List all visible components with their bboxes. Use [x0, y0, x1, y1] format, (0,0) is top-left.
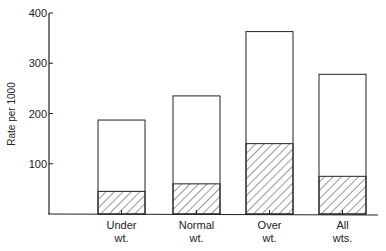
y-tick-label: 300 — [29, 57, 47, 69]
bars — [98, 32, 366, 214]
bar-chart: 100200300400 Underwt.Normalwt.Overwt.All… — [0, 0, 386, 251]
category-label: All — [336, 219, 348, 231]
bar-hatched — [173, 184, 220, 214]
category-labels: Underwt.Normalwt.Overwt.Allwts. — [107, 219, 353, 244]
bar-group — [173, 96, 220, 214]
y-tick-label: 100 — [29, 158, 47, 170]
category-label-line2: wts. — [332, 232, 353, 244]
category-label: Normal — [179, 219, 214, 231]
bar-hatched — [319, 176, 366, 214]
category-label-line2: wt. — [261, 232, 276, 244]
y-tick-label: 400 — [29, 7, 47, 19]
y-axis-label: Rate per 1000 — [6, 82, 17, 146]
category-label-line2: wt. — [188, 232, 203, 244]
bar-group — [98, 120, 145, 214]
category-label: Over — [258, 219, 282, 231]
y-tick-label: 200 — [29, 108, 47, 120]
bar-group — [246, 32, 293, 214]
category-label: Under — [107, 219, 137, 231]
bar-group — [319, 74, 366, 214]
category-label-line2: wt. — [113, 232, 128, 244]
bar-hatched — [246, 144, 293, 214]
